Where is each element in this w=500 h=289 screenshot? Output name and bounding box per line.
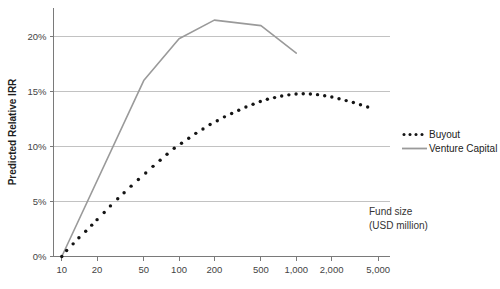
buyout-data-point xyxy=(266,98,269,101)
x-tick-label: 500 xyxy=(253,264,269,275)
buyout-data-point xyxy=(309,92,312,95)
x-tick-label: 5,000 xyxy=(366,264,390,275)
buyout-data-point xyxy=(287,93,290,96)
buyout-data-point xyxy=(251,103,254,106)
buyout-data-point xyxy=(216,119,219,122)
buyout-data-point xyxy=(122,191,125,194)
buyout-data-point xyxy=(316,93,319,96)
x-tick-label: 20 xyxy=(92,264,103,275)
chart-container: 0%5%10%15%20% 1020501002005001,0002,0005… xyxy=(0,0,500,289)
x-axis-note-line1: Fund size xyxy=(369,206,413,217)
buyout-data-point xyxy=(259,100,262,103)
buyout-data-point xyxy=(180,142,183,145)
buyout-data-point xyxy=(129,184,132,187)
chart-svg: 0%5%10%15%20% 1020501002005001,0002,0005… xyxy=(0,0,500,289)
legend-marker-dot xyxy=(409,133,412,136)
buyout-data-point xyxy=(77,236,80,239)
buyout-data-point xyxy=(137,178,140,181)
buyout-data-point xyxy=(65,249,68,252)
y-tick-label: 20% xyxy=(27,31,47,42)
buyout-data-point xyxy=(223,115,226,118)
buyout-data-point xyxy=(60,255,63,258)
buyout-data-point xyxy=(71,242,74,245)
y-tick-label: 5% xyxy=(33,196,47,207)
x-tick-label: 1,000 xyxy=(284,264,308,275)
buyout-data-point xyxy=(230,112,233,115)
buyout-data-point xyxy=(330,95,333,98)
x-tick-label: 10 xyxy=(56,264,67,275)
y-tick-label: 15% xyxy=(27,86,47,97)
legend-item-venture-capital[interactable]: Venture Capital xyxy=(402,143,497,154)
buyout-data-point xyxy=(109,204,112,207)
x-tick-label: 2,000 xyxy=(320,264,344,275)
buyout-data-point xyxy=(90,223,93,226)
buyout-data-point xyxy=(302,92,305,95)
buyout-data-point xyxy=(116,197,119,200)
legend-label-venture-capital: Venture Capital xyxy=(429,143,497,154)
series-buyout xyxy=(60,92,369,258)
y-tick-label: 0% xyxy=(33,251,47,262)
buyout-data-point xyxy=(95,218,98,221)
gridlines xyxy=(54,37,391,202)
legend-marker-dot xyxy=(415,133,418,136)
x-tick-label: 200 xyxy=(206,264,222,275)
buyout-data-point xyxy=(84,230,87,233)
buyout-data-point xyxy=(194,132,197,135)
buyout-data-point xyxy=(158,159,161,162)
buyout-data-point xyxy=(366,105,369,108)
x-axis-note-line2: (USD million) xyxy=(369,220,428,231)
buyout-data-point xyxy=(280,94,283,97)
legend-marker-dot xyxy=(403,133,406,136)
x-tick-label: 50 xyxy=(138,264,149,275)
buyout-data-point xyxy=(187,137,190,140)
y-tick-label: 10% xyxy=(27,141,47,152)
buyout-data-point xyxy=(273,96,276,99)
legend-item-buyout[interactable]: Buyout xyxy=(403,129,461,140)
buyout-data-point xyxy=(344,99,347,102)
buyout-data-point xyxy=(359,103,362,106)
y-axis-title: Predicted Relative IRR xyxy=(7,78,18,185)
buyout-data-point xyxy=(237,109,240,112)
buyout-data-point xyxy=(337,97,340,100)
buyout-data-point xyxy=(244,105,247,108)
buyout-data-point xyxy=(102,211,105,214)
x-axis-ticks: 1020501002005001,0002,0005,000 xyxy=(56,257,390,275)
buyout-data-point xyxy=(144,171,147,174)
buyout-data-point xyxy=(173,146,176,149)
buyout-data-point xyxy=(165,153,168,156)
legend-marker-dot xyxy=(421,133,424,136)
legend-label-buyout: Buyout xyxy=(429,129,460,140)
buyout-data-point xyxy=(151,165,154,168)
buyout-data-point xyxy=(323,94,326,97)
y-axis-ticks: 0%5%10%15%20% xyxy=(27,31,53,262)
x-tick-label: 100 xyxy=(171,264,187,275)
buyout-data-point xyxy=(294,92,297,95)
buyout-data-point xyxy=(208,123,211,126)
buyout-data-point xyxy=(352,101,355,104)
legend: Buyout Venture Capital xyxy=(402,129,497,154)
buyout-data-point xyxy=(201,127,204,130)
